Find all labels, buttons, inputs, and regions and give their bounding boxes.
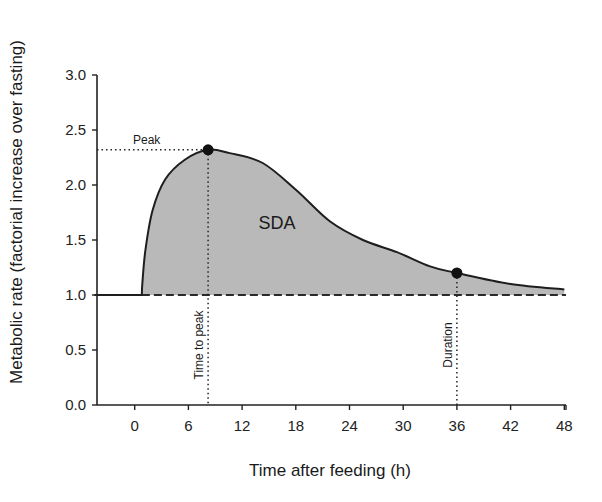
x-tick-label: 48 — [556, 417, 573, 434]
peak-label: Peak — [133, 133, 161, 147]
y-tick-label: 0.5 — [65, 341, 86, 358]
x-axis-title: Time after feeding (h) — [249, 461, 411, 480]
duration-marker — [451, 268, 462, 279]
x-tick-label: 24 — [341, 417, 358, 434]
y-tick-label: 1.5 — [65, 231, 86, 248]
y-tick-label: 2.5 — [65, 121, 86, 138]
duration-label: Duration — [441, 322, 455, 367]
x-tick-label: 42 — [502, 417, 519, 434]
plot-area: PeakTime to peakDuration — [94, 133, 566, 405]
x-tick-label: 0 — [131, 417, 139, 434]
x-tick-label: 18 — [287, 417, 304, 434]
x-tick-label: 6 — [184, 417, 192, 434]
x-tick-label: 30 — [395, 417, 412, 434]
y-tick-label: 1.0 — [65, 286, 86, 303]
peak-marker — [203, 144, 214, 155]
x-tick-label: 36 — [449, 417, 466, 434]
sda-area — [142, 150, 564, 295]
x-tick-label: 12 — [234, 417, 251, 434]
y-tick-label: 0.0 — [65, 396, 86, 413]
sda-chart: PeakTime to peakDuration 061218243036424… — [0, 0, 602, 502]
sda-label: SDA — [258, 213, 295, 233]
y-tick-label: 3.0 — [65, 66, 86, 83]
y-tick-label: 2.0 — [65, 176, 86, 193]
y-axis-title: Metabolic rate (factorial increase over … — [7, 40, 26, 384]
time-to-peak-label: Time to peak — [192, 310, 206, 380]
